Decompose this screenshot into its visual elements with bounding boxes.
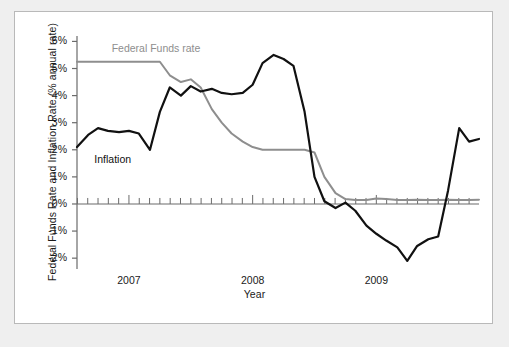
- y-tick-label: 2%: [33, 143, 67, 155]
- y-tick-label: -1%: [33, 224, 67, 236]
- series-label-inflation: Inflation: [94, 153, 131, 165]
- x-tick-label: 2009: [346, 274, 406, 286]
- y-tick-label: 0%: [33, 197, 67, 209]
- y-tick-label: 4%: [33, 89, 67, 101]
- series-label-federal-funds-rate: Federal Funds rate: [112, 42, 201, 54]
- y-tick-label: -2%: [33, 251, 67, 263]
- series-line-federal-funds-rate: [77, 62, 479, 200]
- x-tick-label: 2008: [223, 274, 283, 286]
- y-tick-label: 3%: [33, 116, 67, 128]
- x-axis-title: Year: [15, 288, 494, 300]
- series-line-inflation: [77, 55, 479, 261]
- figure-panel: Federal Funds Rate and Inflation Rate (%…: [14, 11, 493, 324]
- x-tick-label: 2007: [99, 274, 159, 286]
- y-tick-label: 6%: [33, 34, 67, 46]
- y-tick-label: 1%: [33, 170, 67, 182]
- y-tick-label: 5%: [33, 62, 67, 74]
